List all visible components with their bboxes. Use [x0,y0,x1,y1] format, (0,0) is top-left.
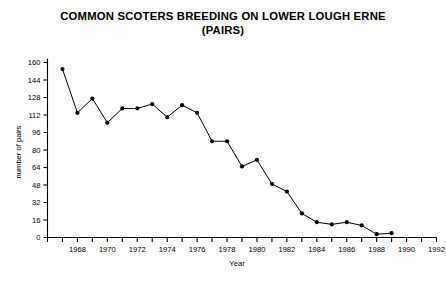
y-axis-label: number of pairs [14,125,23,178]
chart-figure: COMMON SCOTERS BREEDING ON LOWER LOUGH E… [0,0,446,282]
data-point [120,106,124,110]
y-tick-label: 48 [32,181,40,190]
data-point [390,231,394,235]
data-point [90,96,94,100]
x-tick-label: 1976 [189,245,206,254]
x-tick-label: 1970 [99,245,116,254]
data-point [300,211,304,215]
y-tick-label: 64 [32,163,40,172]
y-axis: 0163248648096112128144160 [28,58,48,242]
x-axis: 1968197019721974197619781980198219841986… [48,238,445,254]
y-tick-label: 160 [28,58,41,67]
y-tick-label: 144 [28,76,41,85]
data-point [345,220,349,224]
data-point [330,222,334,226]
data-point [150,102,154,106]
data-point [180,103,184,107]
x-tick-label: 1990 [398,245,415,254]
data-point [225,139,229,143]
x-tick-label: 1984 [308,245,325,254]
x-tick-label: 1972 [129,245,146,254]
data-point [240,164,244,168]
data-point [60,67,64,71]
data-point [135,106,139,110]
data-point [375,232,379,236]
data-point [315,220,319,224]
y-tick-label: 32 [32,198,40,207]
y-tick-label: 128 [28,93,41,102]
x-tick-label: 1968 [69,245,86,254]
y-tick-label: 96 [32,128,40,137]
data-point [195,111,199,115]
data-point [105,121,109,125]
data-point [285,189,289,193]
data-series [60,67,393,236]
x-tick-label: 1986 [338,245,355,254]
x-tick-label: 1982 [278,245,295,254]
x-tick-label: 1992 [428,245,445,254]
data-point [75,111,79,115]
y-tick-label: 16 [32,216,40,225]
data-point [270,182,274,186]
x-axis-label: Year [229,259,245,268]
data-point [165,115,169,119]
x-tick-label: 1980 [249,245,266,254]
y-tick-label: 80 [32,146,40,155]
x-tick-label: 1974 [159,245,176,254]
x-tick-label: 1988 [368,245,385,254]
data-point [360,223,364,227]
data-point [210,139,214,143]
line-chart-plot: 0163248648096112128144160 19681970197219… [0,0,446,282]
y-tick-label: 0 [36,233,40,242]
data-point [255,158,259,162]
y-tick-label: 112 [28,111,40,120]
x-tick-label: 1978 [219,245,236,254]
